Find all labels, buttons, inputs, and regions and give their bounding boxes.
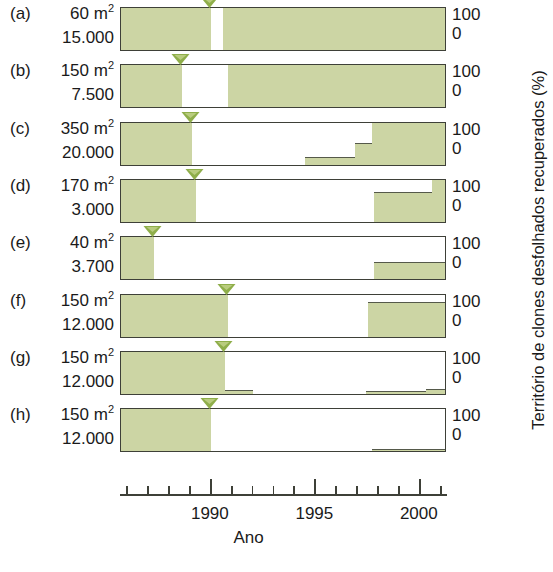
plot-panel (120, 236, 446, 280)
row-label-block: (d)170 m23.000 (10, 174, 118, 221)
plot-panel (120, 122, 446, 166)
row-area-value: 350 m2 (44, 117, 114, 140)
row-label-line-1: (c)350 m2 (10, 117, 118, 140)
y-tick-100: 100 (452, 5, 480, 24)
row-area-exponent: 2 (108, 346, 114, 358)
row-tag: (h) (10, 403, 44, 426)
row-label-block: (f)150 m212.000 (10, 289, 118, 336)
row-colony-size: 20.000 (10, 141, 114, 164)
row-label-block: (h)150 m212.000 (10, 403, 118, 450)
y-tick-0: 0 (452, 24, 480, 43)
recovery-step-segment (374, 192, 433, 222)
row-area-number: 150 m (61, 61, 108, 80)
row-area-value: 150 m2 (44, 346, 114, 369)
row-area-exponent: 2 (108, 403, 114, 415)
y-tick-0: 0 (452, 81, 480, 100)
x-axis-tick-label: 1995 (295, 504, 333, 524)
x-axis-minor-tick (398, 486, 400, 496)
row-area-exponent: 2 (108, 2, 114, 14)
recovery-step-segment (121, 179, 196, 222)
y-tick-100: 100 (452, 177, 480, 196)
triangle-highlight-icon (147, 227, 159, 232)
y-tick-0: 0 (452, 139, 480, 158)
y-tick-100: 100 (452, 406, 480, 425)
recovery-step-segment (374, 262, 446, 280)
row-area-number: 150 m (61, 291, 108, 310)
row-area-value: 40 m2 (44, 231, 114, 254)
recovery-step-segment (426, 389, 446, 394)
defoliation-marker-icon (200, 0, 219, 8)
row-area-number: 40 m (70, 233, 108, 252)
recovery-step-segment (355, 143, 372, 164)
recovery-step-segment (121, 351, 225, 394)
row-label-block: (b)150 m27.500 (10, 59, 118, 106)
x-axis-minor-tick (273, 486, 275, 496)
x-axis-title-text: Ano (233, 528, 263, 548)
y-axis-tick-labels: 1000 (452, 5, 480, 43)
row-area-exponent: 2 (108, 174, 114, 186)
row-area-value: 150 m2 (44, 59, 114, 82)
row-colony-size: 7.500 (10, 83, 114, 106)
y-tick-100: 100 (452, 120, 480, 139)
y-axis-tick-labels: 1000 (452, 234, 480, 272)
row-colony-size: 12.000 (10, 313, 114, 336)
recovery-step-segment (372, 449, 446, 451)
row-colony-size: 15.000 (10, 26, 114, 49)
y-tick-100: 100 (452, 234, 480, 253)
row-area-number: 350 m (61, 119, 108, 138)
panel-row: (h)150 m212.0001000 (0, 401, 553, 453)
defoliation-marker-icon (200, 398, 219, 409)
row-area-exponent: 2 (108, 117, 114, 129)
x-axis-major-tick (210, 479, 212, 496)
x-axis-major-tick (419, 479, 421, 496)
recovery-step-segment (366, 391, 427, 394)
row-label-line-1: (a)60 m2 (10, 2, 118, 25)
row-area-exponent: 2 (108, 60, 114, 72)
recovery-step-segment (121, 122, 192, 165)
row-label-block: (e)40 m23.700 (10, 231, 118, 278)
row-area-exponent: 2 (108, 289, 114, 301)
recovery-step-segment (368, 302, 446, 336)
plot-panel (120, 179, 446, 223)
recovery-step-segment (228, 64, 446, 107)
row-tag: (f) (10, 289, 44, 312)
triangle-highlight-icon (185, 113, 197, 118)
row-label-line-1: (g)150 m2 (10, 346, 118, 369)
recovery-step-segment (223, 7, 446, 50)
row-tag: (b) (10, 59, 44, 82)
recovery-step-segment (121, 7, 211, 50)
y-tick-100: 100 (452, 349, 480, 368)
defoliation-marker-icon (186, 169, 205, 180)
row-area-number: 150 m (61, 348, 108, 367)
defoliation-marker-icon (144, 226, 163, 237)
plot-panel (120, 7, 446, 51)
row-label-line-1: (d)170 m2 (10, 174, 118, 197)
row-label-block: (g)150 m212.000 (10, 346, 118, 393)
y-tick-0: 0 (452, 311, 480, 330)
row-colony-size: 3.700 (10, 255, 114, 278)
y-tick-0: 0 (452, 425, 480, 444)
x-axis-minor-tick (293, 486, 295, 496)
x-axis-minor-tick (126, 486, 128, 496)
row-tag: (d) (10, 174, 44, 197)
recovery-step-segment (305, 157, 355, 165)
panel-row: (d)170 m23.0001000 (0, 172, 553, 224)
recovery-step-segment (121, 64, 182, 107)
y-tick-0: 0 (452, 368, 480, 387)
x-axis-minor-tick (231, 486, 233, 496)
x-axis-minor-tick (189, 486, 191, 496)
row-label-block: (a)60 m215.000 (10, 2, 118, 49)
x-axis-tick-label: 1990 (191, 504, 229, 524)
x-axis-minor-tick (377, 486, 379, 496)
row-area-value: 150 m2 (44, 289, 114, 312)
figure-root: (a)60 m215.0001000(b)150 m27.5001000(c)3… (0, 0, 553, 572)
y-axis-tick-labels: 1000 (452, 349, 480, 387)
y-axis-tick-labels: 1000 (452, 120, 480, 158)
row-label-line-1: (b)150 m2 (10, 59, 118, 82)
y-tick-0: 0 (452, 253, 480, 272)
row-area-value: 170 m2 (44, 174, 114, 197)
row-area-value: 60 m2 (44, 2, 114, 25)
row-label-line-1: (h)150 m2 (10, 403, 118, 426)
row-tag: (g) (10, 346, 44, 369)
row-label-line-1: (e)40 m2 (10, 231, 118, 254)
